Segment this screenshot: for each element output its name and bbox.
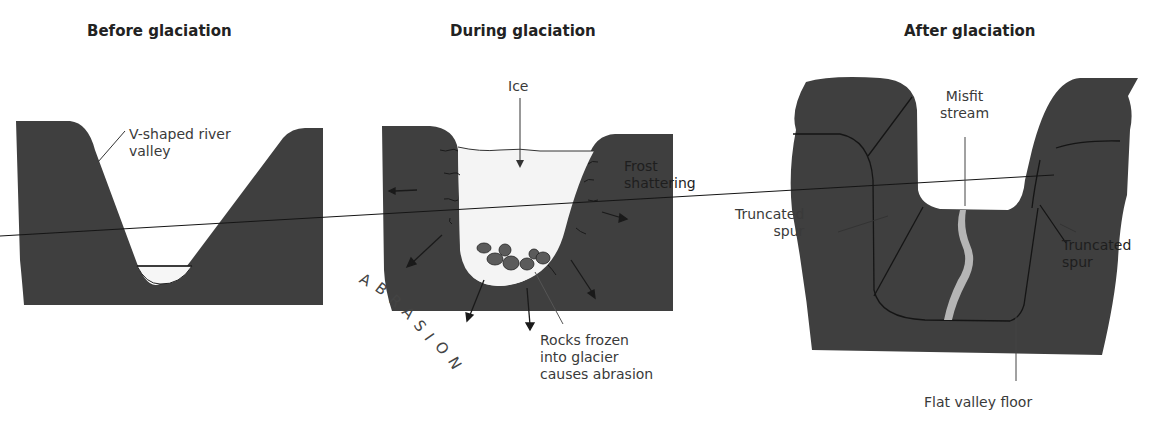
label-truncated-spur-left: Truncated spur <box>735 206 804 240</box>
title-after-glaciation: After glaciation <box>904 22 1036 40</box>
label-frost-shattering: Frost shattering <box>624 158 696 192</box>
title-during-glaciation: During glaciation <box>450 22 596 40</box>
label-misfit-stream: Misfit stream <box>940 88 989 122</box>
during-glaciation-rock <box>382 98 673 330</box>
label-ice: Ice <box>508 78 528 95</box>
label-line-1: Truncated <box>1062 237 1131 254</box>
label-line-2: shattering <box>624 175 696 192</box>
label-rocks-frozen: Rocks frozen into glacier causes abrasio… <box>540 332 653 383</box>
label-line-1: V-shaped river <box>129 126 231 143</box>
label-truncated-spur-right: Truncated spur <box>1062 237 1131 271</box>
title-before-glaciation: Before glaciation <box>87 22 232 40</box>
label-line-2: into glacier <box>540 349 653 366</box>
label-line-1: Frost <box>624 158 696 175</box>
label-v-shaped-valley: V-shaped river valley <box>129 126 231 160</box>
label-line-2: spur <box>735 223 804 240</box>
label-line-2: spur <box>1062 254 1131 271</box>
label-line-1: Misfit <box>940 88 989 105</box>
label-line-2: valley <box>129 143 231 160</box>
label-flat-valley-floor: Flat valley floor <box>924 394 1032 411</box>
label-line-1: Truncated <box>735 206 804 223</box>
label-line-1: Rocks frozen <box>540 332 653 349</box>
label-line-3: causes abrasion <box>540 366 653 383</box>
label-line-2: stream <box>940 105 989 122</box>
